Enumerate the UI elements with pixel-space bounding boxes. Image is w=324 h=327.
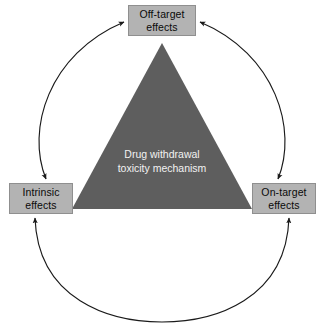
node-off-target-label-line-1: Off-target <box>139 8 184 21</box>
central-triangle <box>72 43 252 209</box>
node-on-target-label-line-2: effects <box>268 199 299 212</box>
node-off-target-label-line-2: effects <box>146 21 177 34</box>
diagram-graphics-layer <box>0 0 324 327</box>
node-intrinsic-label-line-2: effects <box>25 199 56 212</box>
bottom-arc-connector <box>35 218 289 322</box>
node-on-target-effects[interactable]: On-target effects <box>252 183 316 214</box>
node-intrinsic-effects[interactable]: Intrinsic effects <box>9 183 73 214</box>
node-on-target-label-line-1: On-target <box>261 186 306 199</box>
diagram-canvas: Drug withdrawal toxicity mechanism Off-t… <box>0 0 324 327</box>
node-intrinsic-label-line-1: Intrinsic <box>22 186 59 199</box>
node-off-target-effects[interactable]: Off-target effects <box>128 5 196 36</box>
